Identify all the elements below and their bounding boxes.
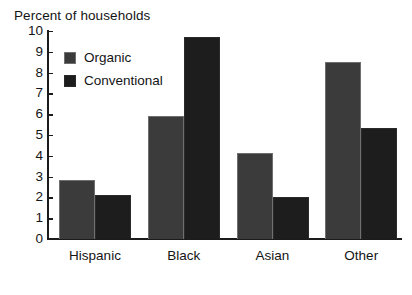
- bar: [59, 180, 95, 239]
- y-axis-tick-label: 5: [3, 128, 43, 142]
- bar: [361, 128, 397, 239]
- y-axis-tick-label: 7: [3, 86, 43, 100]
- x-axis-category-label: Other: [311, 248, 411, 264]
- y-axis-tick-label: 8: [3, 66, 43, 80]
- y-axis-tick-label: 9: [3, 45, 43, 59]
- x-axis-category-label: Black: [134, 248, 234, 264]
- bar: [95, 195, 131, 239]
- legend-item-organic: Organic: [64, 47, 163, 68]
- y-axis-tick-label: 1: [3, 211, 43, 225]
- bar: [148, 116, 184, 239]
- y-axis-tick-labels: 109876543210: [0, 0, 43, 295]
- y-axis-tick-label: 10: [3, 24, 43, 38]
- bar: [273, 197, 309, 239]
- legend-item-conventional: Conventional: [64, 70, 163, 91]
- bar: [184, 37, 220, 239]
- legend-swatch-organic: [64, 52, 76, 64]
- bar-chart: Percent of households 109876543210 Hispa…: [0, 0, 412, 295]
- x-axis-category-label: Hispanic: [45, 248, 145, 264]
- legend-label-organic: Organic: [84, 51, 131, 65]
- y-axis-tick-label: 6: [3, 107, 43, 121]
- y-axis-tick-mark: [47, 239, 53, 240]
- bar: [237, 153, 273, 239]
- x-axis-category-label: Asian: [223, 248, 323, 264]
- y-axis-tick-label: 0: [3, 232, 43, 246]
- legend-label-conventional: Conventional: [84, 74, 163, 88]
- bar: [325, 62, 361, 239]
- y-axis-tick-label: 3: [3, 170, 43, 184]
- y-axis-tick-label: 4: [3, 149, 43, 163]
- chart-legend: Organic Conventional: [64, 47, 163, 93]
- y-axis-tick-label: 2: [3, 190, 43, 204]
- legend-swatch-conventional: [64, 75, 76, 87]
